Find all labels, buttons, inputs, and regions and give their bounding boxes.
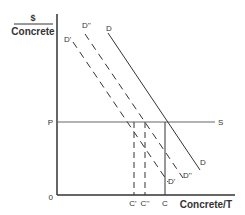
price-label: P	[48, 118, 53, 127]
supply-demand-diagram: $ Concrete 0 Concrete/T P S D D D'' D'' …	[0, 0, 245, 215]
c-prime-label: C'	[129, 199, 137, 208]
c-label: C	[162, 199, 168, 208]
demand-d-prime-top-label: D'	[64, 35, 72, 44]
demand-d-top-label: D	[106, 24, 112, 33]
demand-d-bottom-label: D	[200, 158, 206, 167]
demand-d-prime-bottom-label: D'	[168, 177, 176, 186]
y-axis-label-bottom: Concrete	[11, 26, 55, 37]
demand-d-double-prime-bottom-label: D''	[183, 171, 192, 180]
origin-label: 0	[49, 193, 54, 202]
demand-curve-d-prime	[73, 42, 168, 182]
supply-label: S	[218, 118, 223, 127]
demand-curve-d	[108, 33, 200, 170]
x-axis-label: Concrete/T	[180, 199, 232, 210]
demand-d-double-prime-top-label: D''	[82, 21, 91, 30]
y-axis-label-top: $	[30, 13, 35, 23]
c-double-prime-label: C''	[141, 199, 150, 208]
